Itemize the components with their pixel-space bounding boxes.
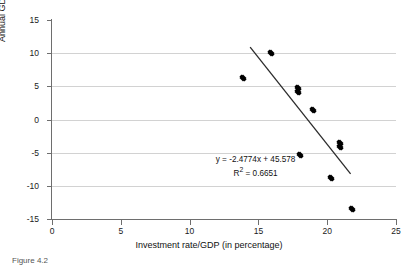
regression-equation: y = -2.4774x + 45.578	[216, 154, 296, 165]
x-tick	[190, 220, 191, 225]
x-tick-label: 5	[118, 227, 123, 236]
y-tick	[47, 153, 52, 154]
x-tick	[258, 220, 259, 225]
x-tick-label: 0	[50, 227, 55, 236]
y-tick-label: 10	[30, 49, 39, 58]
x-tick-label: 15	[254, 227, 263, 236]
x-tick	[121, 220, 122, 225]
plot-area: y = -2.4774x + 45.578 R2 = 0.6651	[52, 20, 396, 219]
data-point	[267, 50, 274, 57]
x-tick-label: 20	[322, 227, 331, 236]
x-tick	[52, 220, 53, 225]
y-tick	[47, 186, 52, 187]
figure-container: Annual GDP growth rate 15 10 5 0 -5 -10 …	[0, 0, 418, 270]
x-axis-tick-labels: 0 5 10 15 20 25	[52, 220, 396, 240]
y-tick-label: 0	[34, 115, 39, 124]
data-point	[310, 106, 317, 113]
y-tick	[47, 20, 52, 21]
r-squared-value: R2 = 0.6651	[216, 165, 296, 179]
data-point	[328, 174, 335, 181]
y-tick-label: -10	[27, 182, 39, 191]
figure-caption: Figure 4.2	[12, 256, 48, 265]
x-tick	[396, 220, 397, 225]
y-tick-label: 15	[30, 16, 39, 25]
y-tick	[47, 53, 52, 54]
y-tick	[47, 86, 52, 87]
y-axis-tick-labels: 15 10 5 0 -5 -10 -15	[0, 20, 48, 219]
x-tick	[327, 220, 328, 225]
y-tick	[47, 120, 52, 121]
x-tick-label: 10	[185, 227, 194, 236]
gridline	[52, 86, 396, 87]
y-tick-label: -15	[27, 215, 39, 224]
data-point	[240, 75, 247, 82]
y-tick-label: -5	[31, 148, 39, 157]
x-axis-title: Investment rate/GDP (in percentage)	[0, 241, 418, 250]
data-point	[348, 206, 355, 213]
data-point	[296, 152, 303, 159]
gridline	[52, 186, 396, 187]
trendline-equation-annotation: y = -2.4774x + 45.578 R2 = 0.6651	[216, 154, 296, 179]
gridline	[52, 53, 396, 54]
y-tick-label: 5	[34, 82, 39, 91]
r-squared-number: = 0.6651	[243, 169, 277, 178]
x-tick-label: 25	[391, 227, 400, 236]
gridline	[52, 120, 396, 121]
